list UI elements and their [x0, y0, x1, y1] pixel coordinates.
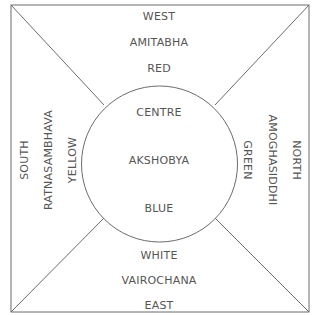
mandala-diagram: WEST AMITABHA RED CENTRE AKSHOBYA BLUE W…	[0, 0, 313, 315]
bottom-color: WHITE	[140, 249, 177, 262]
right-direction: NORTH	[290, 140, 303, 180]
centre-direction: CENTRE	[136, 106, 181, 119]
top-color: RED	[147, 62, 171, 75]
bottom-buddha: VAIROCHANA	[121, 274, 196, 287]
diagonal-bottom-right	[215, 218, 309, 312]
top-direction: WEST	[143, 10, 175, 23]
centre-buddha: AKSHOBYA	[129, 154, 190, 167]
bottom-direction: EAST	[145, 299, 174, 312]
right-buddha: AMOGHASIDDHI	[266, 114, 279, 205]
right-color: GREEN	[241, 140, 254, 179]
centre-color: BLUE	[145, 202, 174, 215]
top-buddha: AMITABHA	[130, 36, 189, 49]
diagonal-top-right	[215, 5, 309, 105]
left-direction: SOUTH	[18, 140, 31, 180]
diagonal-bottom-left	[11, 218, 104, 312]
diagonal-top-left	[11, 5, 104, 105]
left-color: YELLOW	[66, 137, 79, 183]
left-buddha: RATNASAMBHAVA	[42, 110, 55, 210]
